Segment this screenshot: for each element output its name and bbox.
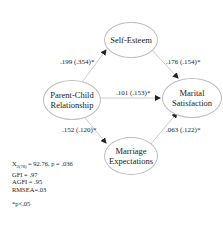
path-label-pc-ms: .101 (.153)* xyxy=(116,89,150,97)
node-label: MaritalSatisfaction xyxy=(172,88,212,108)
node-label: MarriageExpectations xyxy=(109,146,153,166)
rmsea: RMSEA=.03 xyxy=(12,186,73,194)
significance-note: *p<.05 xyxy=(12,200,73,208)
path-label-pc-se: .199 (.354)* xyxy=(60,58,94,66)
gfi: GFI = .97 xyxy=(12,171,73,179)
node-self-esteem: Self-Esteem xyxy=(104,22,158,58)
node-marriage-expectations: MarriageExpectations xyxy=(104,137,158,175)
node-parent-child: Parent-ChildRelationship xyxy=(43,80,101,120)
node-label: Self-Esteem xyxy=(110,35,152,45)
agfi: AGFI = .95 xyxy=(12,178,73,186)
node-marital-satisfaction: MaritalSatisfaction xyxy=(162,78,222,118)
path-label-pc-me: .152 (.120)* xyxy=(62,126,96,134)
path-label-me-ms: .063 (.122)* xyxy=(166,126,200,134)
chi-square: X2(78) = 92.76, p = .036 xyxy=(12,160,73,171)
path-label-se-ms: .176 (.154)* xyxy=(166,58,200,66)
node-label: Parent-ChildRelationship xyxy=(50,90,93,110)
fit-statistics: X2(78) = 92.76, p = .036 GFI = .97 AGFI … xyxy=(12,160,73,208)
